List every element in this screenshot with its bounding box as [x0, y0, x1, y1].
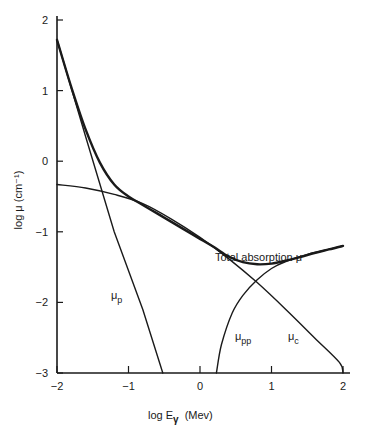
mu-pp-subscript: pp: [241, 336, 251, 346]
x-axis-unit: (Mev): [185, 409, 213, 421]
mu-c-subscript: c: [294, 336, 299, 346]
x-tick-label: 0: [197, 380, 203, 392]
curve-mu-c: [57, 185, 343, 374]
curves: [57, 40, 343, 373]
y-tick-label: 1: [42, 85, 48, 97]
mu-p-subscript: p: [117, 295, 122, 305]
attenuation-chart: 210−1−2−3 −2−1012 Total absorption μ μp …: [0, 0, 367, 434]
y-tick-label: −2: [35, 296, 48, 308]
x-ticks: −2−1012: [51, 366, 346, 392]
curve-total-absorption: [57, 40, 343, 265]
y-ticks: 210−1−2−3: [35, 14, 63, 379]
x-tick-label: 2: [340, 380, 346, 392]
x-tick-label: −1: [122, 380, 135, 392]
x-axis-title-main: log E: [148, 409, 173, 421]
mu-c-label: μc: [288, 330, 299, 346]
gamma-subscript: γ: [173, 414, 179, 425]
mu-pp-label: μpp: [235, 330, 251, 346]
x-tick-label: 1: [268, 380, 274, 392]
y-tick-label: −1: [35, 226, 48, 238]
y-tick-label: 0: [42, 155, 48, 167]
y-tick-label: 2: [42, 14, 48, 26]
mu-p-label: μp: [111, 289, 122, 305]
axes: [57, 16, 350, 373]
x-tick-label: −2: [51, 380, 64, 392]
y-axis-title: log μ (cm⁻¹): [12, 171, 24, 230]
x-axis-title: log Eγ(Mev): [148, 409, 213, 425]
total-absorption-label: Total absorption μ: [215, 251, 302, 263]
y-tick-label: −3: [35, 367, 48, 379]
